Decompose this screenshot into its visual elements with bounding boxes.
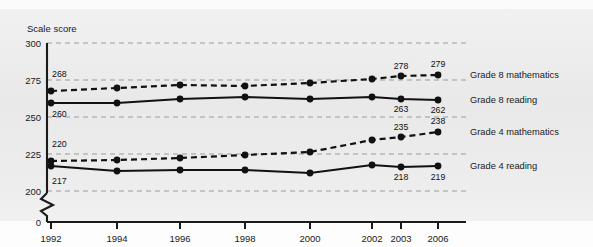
line-chart: 300 275 250 225 200 0 Scale score 1992 1…: [0, 0, 593, 247]
x-tick-label-1998: 1998: [234, 233, 255, 244]
series-grade-4-mathematics: 220 235 238: [48, 116, 446, 164]
y-tick-label-200: 200: [25, 186, 41, 197]
data-point: [369, 162, 376, 169]
series-markers-grade-8-reading: [48, 94, 442, 107]
data-point: [307, 80, 314, 87]
legend: Grade 8 mathematics Grade 8 reading Grad…: [470, 70, 559, 171]
data-point: [177, 96, 184, 103]
data-point: [114, 168, 121, 175]
x-tick-label-2003: 2003: [390, 233, 411, 244]
series-grade-8-mathematics: 268 278 279: [48, 59, 446, 94]
y-tick-label-250: 250: [25, 112, 41, 123]
data-point: [114, 100, 121, 107]
data-point: [398, 96, 405, 103]
series-grade-4-reading: 217 218 219: [48, 162, 446, 186]
y-tick-label-225: 225: [25, 149, 41, 160]
data-point: [242, 167, 249, 174]
x-tick-label-2006: 2006: [427, 233, 448, 244]
data-point: [398, 164, 405, 171]
x-tick-label-1996: 1996: [169, 233, 190, 244]
data-point: [242, 83, 249, 90]
data-point: [435, 97, 442, 104]
x-tick-label-1994: 1994: [106, 233, 127, 244]
data-point: [398, 134, 405, 141]
chart-figure: 300 275 250 225 200 0 Scale score 1992 1…: [0, 0, 593, 247]
data-label-g4m-2006: 238: [431, 116, 446, 126]
data-point: [435, 72, 442, 79]
y-axis-break-zigzag: [41, 193, 53, 222]
data-label-g4r-2006: 219: [431, 172, 446, 182]
legend-item-grade-8-reading: Grade 8 reading: [470, 95, 537, 105]
data-point: [307, 170, 314, 177]
data-label-g4m-2003: 235: [394, 122, 409, 132]
x-tick-label-2000: 2000: [299, 233, 320, 244]
y-tick-label-0: 0: [36, 217, 41, 228]
x-tick-label-2002: 2002: [361, 233, 382, 244]
data-point: [114, 85, 121, 92]
data-point: [177, 155, 184, 162]
data-point: [307, 149, 314, 156]
series-grade-8-reading: 260 263 262: [48, 94, 446, 119]
x-axis: [47, 222, 466, 229]
data-point: [114, 157, 121, 164]
data-label-g4r-1992: 217: [52, 176, 67, 186]
y-tick-label-275: 275: [25, 75, 41, 86]
data-point: [398, 73, 405, 80]
series-markers-grade-4-reading: [48, 162, 442, 177]
data-point: [435, 129, 442, 136]
y-tick-label-300: 300: [25, 38, 41, 49]
data-point: [177, 167, 184, 174]
x-tick-label-1992: 1992: [40, 233, 61, 244]
data-point: [307, 96, 314, 103]
data-point: [48, 88, 55, 95]
data-point: [435, 163, 442, 170]
data-label-g4r-2003: 218: [394, 172, 409, 182]
data-point: [48, 163, 55, 170]
legend-item-grade-4-mathematics: Grade 4 mathematics: [470, 127, 559, 137]
data-point: [369, 76, 376, 83]
legend-item-grade-4-reading: Grade 4 reading: [470, 161, 537, 171]
data-label-g4m-1992: 220: [52, 139, 67, 149]
data-point: [242, 152, 249, 159]
data-point: [242, 94, 249, 101]
series-markers-grade-8-mathematics: [48, 72, 442, 95]
y-axis-title: Scale score: [27, 23, 77, 34]
data-point: [48, 100, 55, 107]
legend-item-grade-8-mathematics: Grade 8 mathematics: [470, 70, 559, 80]
data-label-g8m-2003: 278: [394, 61, 409, 71]
series-markers-grade-4-mathematics: [48, 129, 442, 165]
data-point: [177, 82, 184, 89]
data-point: [369, 137, 376, 144]
data-label-g8r-1992: 260: [52, 109, 67, 119]
data-label-g8r-2006: 262: [431, 105, 446, 115]
data-label-g8m-1992: 268: [52, 69, 67, 79]
data-label-g8r-2003: 263: [394, 104, 409, 114]
data-point: [369, 94, 376, 101]
data-label-g8m-2006: 279: [431, 59, 446, 69]
